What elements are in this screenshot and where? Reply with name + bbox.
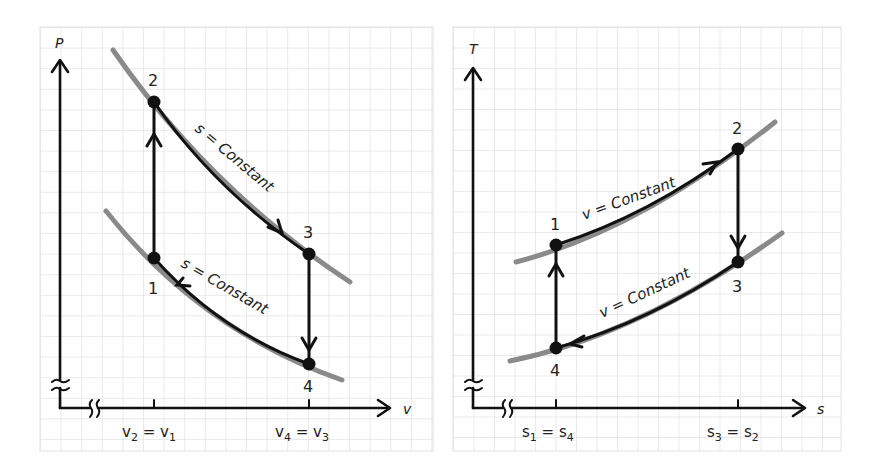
state-label-2: 2 <box>148 71 158 90</box>
state-label-3: 3 <box>732 277 742 296</box>
ts-grid <box>453 27 841 451</box>
x-tick-label-s3-s2: s3 = s2 <box>707 423 759 444</box>
state-label-4: 4 <box>550 361 560 380</box>
s-axis-label: s <box>817 401 824 417</box>
x-tick-label-v4-v3: v4 = v3 <box>275 423 329 444</box>
state-label-4: 4 <box>303 377 313 396</box>
pv-grid <box>40 27 433 451</box>
state-point-4 <box>550 342 563 355</box>
state-point-3 <box>303 248 316 261</box>
state-label-2: 2 <box>732 119 742 138</box>
x-tick-label-s1-s4: s1 = s4 <box>522 423 574 444</box>
state-label-1: 1 <box>550 215 560 234</box>
ts-diagram: T s 1 2 3 4 v = Constant v = Constant s1… <box>453 27 841 451</box>
state-point-1 <box>148 252 161 265</box>
state-point-2 <box>148 96 161 109</box>
pv-diagram: P v 2 3 1 4 s = Constant s = Constant v2… <box>40 27 433 451</box>
p-axis-label: P <box>55 35 64 51</box>
state-point-1 <box>550 239 563 252</box>
state-label-3: 3 <box>303 223 313 242</box>
v-axis-label: v <box>403 401 412 417</box>
state-point-2 <box>732 143 745 156</box>
x-tick-label-v2-v1: v2 = v1 <box>122 423 176 444</box>
state-point-3 <box>732 256 745 269</box>
state-label-1: 1 <box>148 279 158 298</box>
t-axis-label: T <box>469 41 479 57</box>
otto-cycle-diagrams: P v 2 3 1 4 s = Constant s = Constant v2… <box>0 0 881 463</box>
state-point-4 <box>303 358 316 371</box>
